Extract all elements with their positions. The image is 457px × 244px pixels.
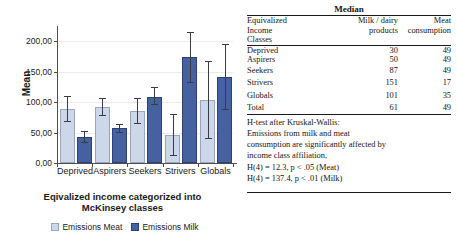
bar-chart: Mean 0,0050,00100,00150,00200,00 Eqivali… xyxy=(0,0,240,244)
header-classes-line1: Equivalized xyxy=(247,16,337,26)
cell-class: Total xyxy=(247,102,337,114)
bar-group xyxy=(128,26,163,163)
legend-item[interactable]: Emissions Meat xyxy=(51,222,122,232)
cell-class: Seekers xyxy=(247,65,337,77)
cell-meat: 49 xyxy=(398,65,451,77)
error-bar-cap-top xyxy=(81,131,88,132)
x-category-label-strivers: Strivers xyxy=(163,166,198,176)
error-bar xyxy=(102,98,103,116)
error-bar-cap-top xyxy=(205,61,212,62)
x-category-label-aspirers: Aspirers xyxy=(92,166,127,176)
x-tick xyxy=(92,163,93,167)
legend-label: Emissions Meat xyxy=(62,222,122,232)
bar-group xyxy=(164,26,199,163)
error-bar-cap-top xyxy=(170,114,177,115)
x-tick xyxy=(233,163,234,167)
bar-group xyxy=(199,26,234,163)
x-category-label-deprived: Deprived xyxy=(57,166,92,176)
figure-root: Mean 0,0050,00100,00150,00200,00 Eqivali… xyxy=(0,0,457,244)
table-row: Deprived3049 xyxy=(247,46,451,56)
median-table: Median Equivalized Income Classes Milk /… xyxy=(247,4,451,240)
legend-label: Emissions Milk xyxy=(142,222,198,232)
header-milk: Milk / dairy products xyxy=(337,16,398,45)
x-axis-title-line2: McKinsey classes xyxy=(20,202,225,213)
error-bar xyxy=(190,32,191,83)
x-category-label-seekers: Seekers xyxy=(127,166,162,176)
x-axis-title: Eqivalized income categorized into McKin… xyxy=(20,191,225,213)
header-classes-line2: Income xyxy=(247,26,337,36)
cell-milk: 101 xyxy=(337,89,398,101)
bar-aspirers-milk xyxy=(112,128,127,163)
table-bottom-rule xyxy=(247,192,451,193)
header-classes-line3: Classes xyxy=(247,35,337,45)
cell-class: Strivers xyxy=(247,77,337,89)
cell-milk: 151 xyxy=(337,77,398,89)
table-row: Seekers8749 xyxy=(247,65,451,77)
x-tick xyxy=(127,163,128,167)
error-bar xyxy=(208,61,209,139)
note-line: consumption are significantly affected b… xyxy=(247,139,451,150)
error-bar-cap-top xyxy=(134,98,141,99)
legend-swatch xyxy=(131,223,139,231)
table-title: Median xyxy=(247,4,451,15)
cell-milk: 87 xyxy=(337,65,398,77)
bar-group xyxy=(93,26,128,163)
error-bar xyxy=(67,96,68,122)
table-header-row: Equivalized Income Classes Milk / dairy … xyxy=(247,16,451,45)
header-classes: Equivalized Income Classes xyxy=(247,16,337,45)
header-milk-line1: Milk / dairy xyxy=(337,16,398,26)
bar-seekers-milk xyxy=(147,97,162,163)
cell-milk: 50 xyxy=(337,55,398,65)
cell-meat: 49 xyxy=(398,102,451,114)
cell-meat: 17 xyxy=(398,77,451,89)
error-bar-cap-bottom xyxy=(99,115,106,116)
cell-class: Deprived xyxy=(247,46,337,56)
y-tick-label: 200,00 xyxy=(26,36,52,46)
table-row: Total6149 xyxy=(247,102,451,114)
note-line: income class affiliation, xyxy=(247,150,451,161)
table-row: Globals10135 xyxy=(247,89,451,101)
x-category-label-globals: Globals xyxy=(198,166,233,176)
error-bar-cap-bottom xyxy=(205,138,212,139)
error-bar xyxy=(173,114,174,156)
header-milk-line2: products xyxy=(337,26,398,36)
note-line: H(4) = 137.4, p < .01 (Milk) xyxy=(247,173,451,184)
chart-legend: Emissions MeatEmissions Milk xyxy=(20,222,230,232)
error-bar-cap-bottom xyxy=(134,123,141,124)
cell-class: Aspirers xyxy=(247,55,337,65)
error-bar-cap-top xyxy=(116,124,123,125)
error-bar xyxy=(137,98,138,124)
x-tick xyxy=(163,163,164,167)
x-tick xyxy=(57,163,58,167)
y-tick-label: 0,00 xyxy=(35,158,52,168)
error-bar xyxy=(119,124,120,133)
error-bar-cap-top xyxy=(187,32,194,33)
cell-meat: 49 xyxy=(398,55,451,65)
cell-milk: 61 xyxy=(337,102,398,114)
cell-meat: 35 xyxy=(398,89,451,101)
error-bar-cap-bottom xyxy=(187,82,194,83)
table-note: H-test after Kruskal-Wallis:Emissions fr… xyxy=(247,115,451,184)
plot-area: 0,0050,00100,00150,00200,00 xyxy=(57,26,233,163)
error-bar xyxy=(225,44,226,110)
error-bar-cap-bottom xyxy=(151,104,158,105)
error-bar-cap-bottom xyxy=(81,142,88,143)
table-row: Strivers15117 xyxy=(247,77,451,89)
bar-group xyxy=(58,26,93,163)
note-line: H-test after Kruskal-Wallis: xyxy=(247,117,451,128)
error-bar-cap-bottom xyxy=(222,109,229,110)
legend-swatch xyxy=(51,223,59,231)
y-tick-label: 50,00 xyxy=(31,128,52,138)
legend-item[interactable]: Emissions Milk xyxy=(131,222,198,232)
header-meat-line1: Meat xyxy=(398,16,451,26)
error-bar-cap-top xyxy=(99,98,106,99)
header-meat: Meat consumption xyxy=(398,16,451,45)
x-axis-title-line1: Eqivalized income categorized into xyxy=(20,191,225,202)
header-meat-line2: consumption xyxy=(398,26,451,36)
note-line: H(4) = 12.3, p < .05 (Meat) xyxy=(247,162,451,173)
error-bar-cap-top xyxy=(222,44,229,45)
cell-meat: 49 xyxy=(398,46,451,56)
error-bar xyxy=(154,87,155,105)
error-bar xyxy=(84,131,85,143)
error-bar-cap-bottom xyxy=(116,132,123,133)
